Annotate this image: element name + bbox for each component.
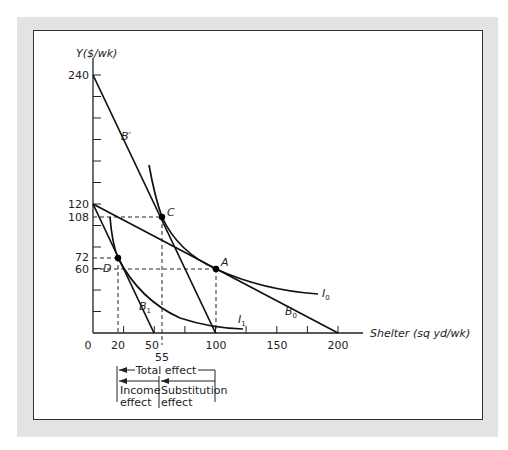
y-axis-title: Y($/wk) <box>76 47 117 60</box>
y-axis-ticks <box>93 75 101 312</box>
point-d-label: D <box>103 262 111 275</box>
income-effect-label-line2: effect <box>120 396 152 409</box>
x-tick-0: 0 <box>85 339 92 352</box>
curve-label-b0: B0 <box>285 305 297 320</box>
x-tick-150: 150 <box>267 339 288 352</box>
y-tick-240: 240 <box>68 69 89 82</box>
y-tick-120: 120 <box>68 198 89 211</box>
x-tick-100: 100 <box>206 339 227 352</box>
x-tick-20: 20 <box>111 339 125 352</box>
point-a-label: A <box>220 256 229 269</box>
point-a <box>213 266 219 272</box>
indifference-curve-diagram: C A D B′ B0 B1 I0 I1 Y($/wk) Shelter (sq… <box>0 0 508 450</box>
indifference-curve-i0 <box>149 165 318 294</box>
point-d <box>115 255 121 261</box>
x-tick-200: 200 <box>328 339 349 352</box>
total-effect-label: Total effect <box>135 364 197 377</box>
curve-label-b1: B1 <box>139 300 151 315</box>
y-tick-60: 60 <box>75 263 89 276</box>
point-c-label: C <box>167 206 175 219</box>
curve-label-i0: I0 <box>322 287 330 302</box>
curve-label-i1: I1 <box>238 313 246 328</box>
x-axis-ticks <box>124 326 338 333</box>
x-axis-title: Shelter (sq yd/wk) <box>370 327 470 340</box>
curve-label-b-prime: B′ <box>121 130 132 143</box>
point-c <box>159 214 165 220</box>
substitution-effect-label-line2: effect <box>161 396 193 409</box>
budget-lines <box>93 75 338 333</box>
x-tick-55: 55 <box>155 351 169 364</box>
budget-line-b-prime <box>93 75 216 333</box>
y-tick-108: 108 <box>68 211 89 224</box>
